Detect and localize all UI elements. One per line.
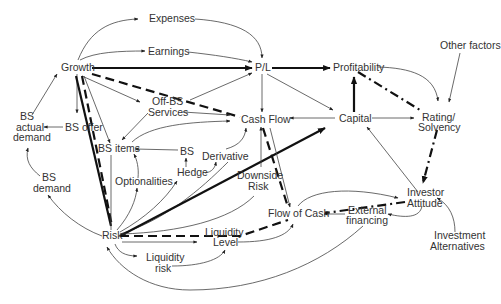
node-expenses: Expenses bbox=[149, 12, 195, 24]
node-hedge: Hedge bbox=[177, 166, 208, 178]
causal-loop-diagram: Expenses Earnings Growth P/L Profitabili… bbox=[0, 0, 501, 304]
node-bs-actual-demand-line3: demand bbox=[13, 131, 51, 143]
node-external-financing-line2: financing bbox=[346, 214, 388, 226]
node-off-bs-services-line2: Services bbox=[148, 106, 188, 118]
node-investment-alternatives-line2: Alternatives bbox=[430, 240, 485, 252]
node-cash-flow: Cash Flow bbox=[241, 113, 291, 125]
node-rating-solvency-line2: Solvency bbox=[418, 121, 461, 133]
node-downside-risk-line2: Risk bbox=[248, 180, 269, 192]
node-investor-attitude-line2: Attitude bbox=[407, 197, 443, 209]
node-capital: Capital bbox=[339, 112, 372, 124]
node-flow-of-cash: Flow of Cash bbox=[268, 207, 329, 219]
node-bs-items: BS items bbox=[98, 142, 140, 154]
node-bs-demand-line2: demand bbox=[33, 182, 71, 194]
nodes: Expenses Earnings Growth P/L Profitabili… bbox=[13, 12, 501, 274]
node-other-factors: Other factors bbox=[440, 39, 501, 51]
node-pl: P/L bbox=[255, 61, 271, 73]
node-risk: Risk bbox=[102, 229, 123, 241]
node-derivative: Derivative bbox=[202, 150, 249, 162]
node-earnings: Earnings bbox=[148, 45, 189, 57]
node-growth: Growth bbox=[61, 61, 95, 73]
node-bs-offer: BS offer bbox=[65, 121, 103, 133]
node-profitability: Profitability bbox=[333, 61, 385, 73]
node-optionalities: Optionalities bbox=[115, 175, 173, 187]
node-bs: BS bbox=[180, 145, 194, 157]
node-liquidity-risk-line2: risk bbox=[155, 262, 172, 274]
node-liquidity-level-line2: Level bbox=[213, 236, 238, 248]
